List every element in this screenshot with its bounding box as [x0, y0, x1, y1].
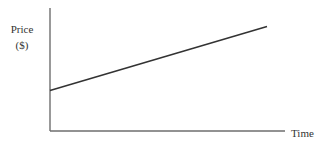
series-line-price [50, 26, 267, 90]
x-axis-label: Time [291, 127, 314, 139]
price-time-chart: Price ($) Time [0, 0, 335, 148]
y-axis-unit-label: ($) [16, 39, 29, 52]
y-axis-label: Price [11, 23, 34, 35]
series-group [50, 26, 267, 90]
